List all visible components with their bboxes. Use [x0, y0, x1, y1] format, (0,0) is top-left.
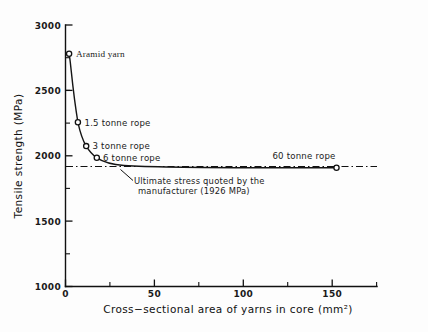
rope-3-label: 3 tonne rope	[93, 141, 150, 151]
ultimate-stress-label-line2: manufacturer (1926 MPa)	[138, 186, 250, 196]
marker-60-tonne	[334, 165, 339, 170]
rope-6-label: 6 tonne rope	[103, 153, 160, 163]
y-axis-ticks	[66, 25, 73, 287]
ultimate-stress-leader-line	[121, 170, 134, 181]
y-axis-tick-labels: 3000 2500 2000 1500 1000	[35, 21, 61, 293]
x-axis-tick-labels: 0 50 100 150	[62, 289, 342, 299]
y-tick-label-1000: 1000	[35, 282, 61, 292]
tensile-strength-plot: 3000 2500 2000 1500 1000 0 50 100 150	[0, 0, 428, 332]
marker-6-tonne	[94, 155, 99, 160]
y-tick-label-1500: 1500	[35, 217, 61, 227]
chart-figure: 3000 2500 2000 1500 1000 0 50 100 150	[0, 0, 428, 332]
y-tick-label-2500: 2500	[35, 86, 61, 96]
aramid-yarn-label: Aramid yarn	[76, 49, 125, 59]
rope-1-5-label: 1.5 tonne rope	[85, 118, 151, 128]
y-axis-title: Tensile strength (MPa)	[12, 94, 24, 220]
marker-3-tonne	[84, 144, 89, 149]
ultimate-stress-label-line1: Ultimate stress quoted by the	[134, 176, 265, 186]
x-axis-ticks	[66, 280, 377, 287]
x-tick-label-50: 50	[148, 289, 161, 299]
marker-aramid-yarn	[67, 51, 72, 56]
x-tick-label-150: 150	[322, 289, 342, 299]
x-tick-label-100: 100	[233, 289, 253, 299]
y-tick-label-2000: 2000	[35, 151, 61, 161]
x-axis-title: Cross−sectional area of yarns in core (m…	[103, 303, 353, 315]
x-tick-label-0: 0	[62, 289, 69, 299]
marker-1-5-tonne	[75, 120, 80, 125]
y-tick-label-3000: 3000	[35, 21, 61, 31]
rope-60-label: 60 tonne rope	[272, 151, 335, 161]
